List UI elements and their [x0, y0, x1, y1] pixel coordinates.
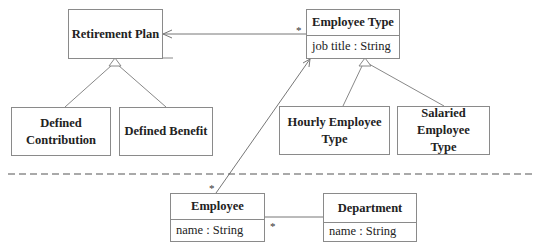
class-employee-type[interactable]: Employee Type job title : String: [306, 9, 400, 59]
class-attribute: job title : String: [307, 35, 399, 58]
generalization-triangle-icon: [359, 58, 371, 66]
class-defined-contribution[interactable]: Defined Contribution: [11, 107, 111, 156]
class-name: Hourly Employee Type: [280, 107, 389, 154]
class-name: Defined Contribution: [12, 108, 110, 155]
class-attribute: name : String: [171, 219, 264, 241]
class-name: Retirement Plan: [69, 10, 162, 58]
class-name: Department: [324, 194, 416, 222]
class-salaried-employee-type[interactable]: Salaried Employee Type: [397, 106, 490, 155]
class-attribute: name : String: [324, 222, 416, 241]
class-hourly-employee-type[interactable]: Hourly Employee Type: [279, 106, 390, 155]
class-department[interactable]: Department name : String: [323, 193, 417, 242]
multiplicity-label: *: [296, 24, 302, 36]
generalization-triangle-icon: [109, 58, 121, 66]
class-employee[interactable]: Employee name : String: [170, 193, 265, 242]
association-employee-type-retirement-plan: [163, 30, 306, 38]
class-name: Defined Benefit: [120, 108, 212, 155]
class-retirement-plan[interactable]: Retirement Plan: [68, 9, 163, 59]
class-defined-benefit[interactable]: Defined Benefit: [119, 107, 213, 156]
class-name: Employee Type: [307, 10, 399, 35]
generalization-retirement-plan: [65, 58, 166, 107]
class-name: Employee: [171, 194, 264, 219]
multiplicity-label: *: [270, 220, 276, 232]
generalization-employee-type: [343, 58, 444, 106]
class-name: Salaried Employee Type: [398, 107, 489, 154]
